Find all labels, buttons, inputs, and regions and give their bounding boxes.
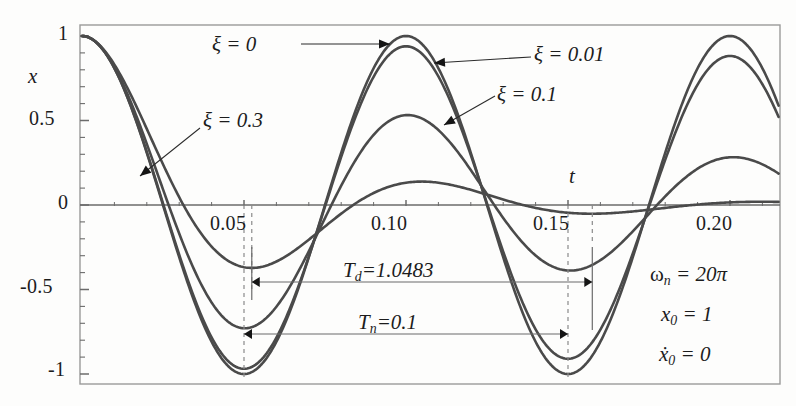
plot-frame <box>80 25 780 384</box>
zeta-03-text: ξ = 0.3 <box>203 108 263 132</box>
y-tick-neg0p5: -0.5 <box>20 275 53 298</box>
zeta-01-text: ξ = 0.1 <box>497 82 557 106</box>
Tn-subscript: n <box>370 321 377 336</box>
measure-label-Td: Td=1.0483 <box>343 258 434 285</box>
x-tick-0p15: 0.15 <box>533 212 569 235</box>
param-omega-n: ωn = 20π <box>650 262 727 289</box>
x-tick-0p10: 0.10 <box>371 212 407 235</box>
measure-label-Tn: Tn=0.1 <box>358 310 417 337</box>
Tn-arrow-right <box>560 329 568 339</box>
param-x0-dot: ẋ0 = 0 <box>659 342 710 369</box>
Td-symbol: T <box>343 258 355 282</box>
x-tick-0p05: 0.05 <box>210 212 246 235</box>
y-tick-0p5: 0.5 <box>29 107 55 130</box>
omega-n-symbol: ω <box>650 262 664 286</box>
Tn-value: =0.1 <box>377 310 417 334</box>
leader-zeta-001 <box>434 57 531 63</box>
Tn-arrow-left <box>244 329 252 339</box>
figure-container: x t 1 0.5 0 -0.5 -1 0.05 0.10 0.15 0.20 … <box>0 0 796 406</box>
x0-dot-subscript: 0 <box>668 353 675 368</box>
x0-dot-value: = 0 <box>681 342 711 366</box>
Td-subscript: d <box>355 269 362 284</box>
curve-label-zeta-03: ξ = 0.3 <box>203 108 263 133</box>
param-x0: x0 = 1 <box>661 302 712 329</box>
zeta-0-text: ξ = 0 <box>212 32 256 56</box>
curve-label-zeta-001: ξ = 0.01 <box>534 42 604 67</box>
x-tick-0p20: 0.20 <box>696 212 732 235</box>
x0-subscript: 0 <box>670 313 677 328</box>
y-tick-1: 1 <box>58 22 68 45</box>
x0-symbol: x <box>661 302 670 326</box>
omega-n-subscript: n <box>664 273 671 288</box>
Td-arrow-right <box>584 277 592 287</box>
omega-n-value: = 20π <box>676 262 727 286</box>
y-tick-0: 0 <box>58 191 68 214</box>
x0-value: = 1 <box>683 302 713 326</box>
curve-label-zeta-0: ξ = 0 <box>212 32 256 57</box>
y-tick-neg1: -1 <box>48 358 65 381</box>
curve-label-zeta-01: ξ = 0.1 <box>497 82 557 107</box>
y-axis-label: x <box>28 64 37 89</box>
x-axis-label: t <box>569 164 575 189</box>
leader-zeta-03-head <box>140 166 151 176</box>
curve-0p3 <box>82 36 779 268</box>
Tn-symbol: T <box>358 310 370 334</box>
zeta-001-text: ξ = 0.01 <box>534 42 604 66</box>
x0-dot-symbol: ẋ <box>659 342 668 366</box>
leader-zeta-01-head <box>444 116 456 125</box>
Td-arrow-left <box>252 277 260 287</box>
Td-value: =1.0483 <box>362 258 434 282</box>
